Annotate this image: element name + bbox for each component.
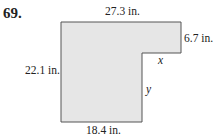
y-variable-label: y: [146, 83, 151, 95]
left-length-label: 22.1 in.: [25, 64, 60, 76]
x-variable-label: x: [158, 54, 163, 66]
bottom-length-label: 18.4 in.: [86, 124, 121, 136]
right-length-label: 6.7 in.: [184, 32, 213, 44]
top-length-label: 27.3 in.: [105, 5, 140, 17]
